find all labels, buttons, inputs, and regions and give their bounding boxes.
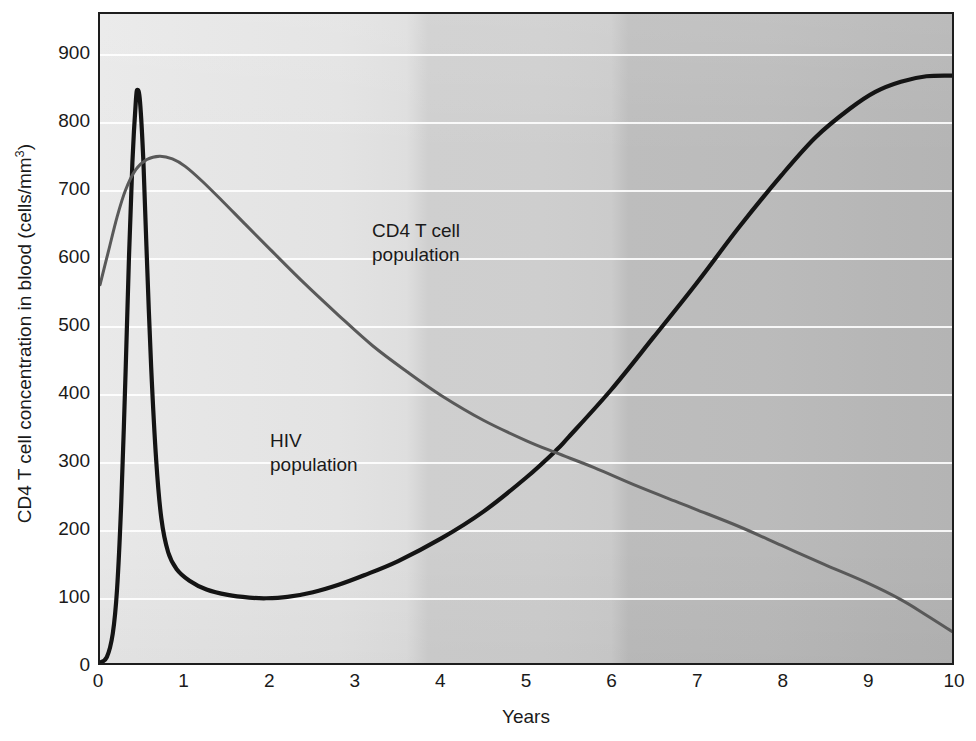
x-tick-label-4: 4: [410, 670, 470, 692]
x-tick-label-2: 2: [239, 670, 299, 692]
x-tick-label-5: 5: [496, 670, 556, 692]
x-tick-label-0: 0: [68, 670, 128, 692]
x-tick-label-10: 10: [924, 670, 976, 692]
hiv-cd4-chart-figure: CD4 T cell concentration in blood (cells…: [0, 0, 976, 741]
x-tick-label-3: 3: [325, 670, 385, 692]
x-tick-label-9: 9: [838, 670, 898, 692]
x-tick-label-1: 1: [154, 670, 214, 692]
x-tick-label-7: 7: [667, 670, 727, 692]
x-tick-label-6: 6: [582, 670, 642, 692]
x-tick-label-8: 8: [753, 670, 813, 692]
x-axis-title: Years: [98, 706, 954, 728]
x-axis-tick-labels: 012345678910: [0, 0, 976, 741]
